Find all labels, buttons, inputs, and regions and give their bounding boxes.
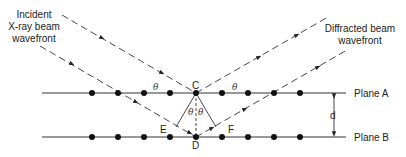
incident-label-line3: wavefront <box>11 33 56 44</box>
plane-a-atom <box>89 90 95 96</box>
plane-b-atom <box>167 134 173 140</box>
theta-diffracted: θ <box>232 82 238 92</box>
plane-b-atom <box>89 134 95 140</box>
incident-ray-upper <box>62 15 196 93</box>
plane-a-atom <box>245 90 251 96</box>
plane-a-atom <box>141 90 147 96</box>
plane-b-atom <box>219 134 225 140</box>
plane-a-atom <box>271 90 277 96</box>
point-d-label: D <box>192 140 199 151</box>
incident-label-line1: Incident <box>16 9 51 20</box>
plane-b-atom <box>271 134 277 140</box>
plane-b-atom <box>297 134 303 140</box>
theta-left: θ <box>188 107 194 117</box>
spacing-label: d <box>330 110 336 121</box>
diffracted-ray-upper <box>196 17 328 93</box>
plane-b-atom <box>115 134 121 140</box>
plane-a-atom <box>297 90 303 96</box>
plane-a-atom <box>115 90 121 96</box>
plane-a-label: Plane A <box>354 88 389 99</box>
bragg-diffraction-diagram: Incident X-ray beam wavefront Diffracted… <box>0 0 406 157</box>
plane-b-atom <box>245 134 251 140</box>
point-c-label: C <box>192 80 199 91</box>
point-e-label: E <box>160 124 167 135</box>
point-f-label: F <box>228 124 234 135</box>
plane-b-label: Plane B <box>354 132 389 143</box>
plane-a-atom <box>167 90 173 96</box>
diffracted-label-line1: Diffracted beam <box>325 23 395 34</box>
plane-b-atom <box>141 134 147 140</box>
incident-label-line2: X-ray beam <box>8 21 60 32</box>
plane-a-atom <box>219 90 225 96</box>
diffracted-label-line2: wavefront <box>337 35 382 46</box>
theta-incident: θ <box>153 82 159 92</box>
theta-right: θ <box>198 107 204 117</box>
